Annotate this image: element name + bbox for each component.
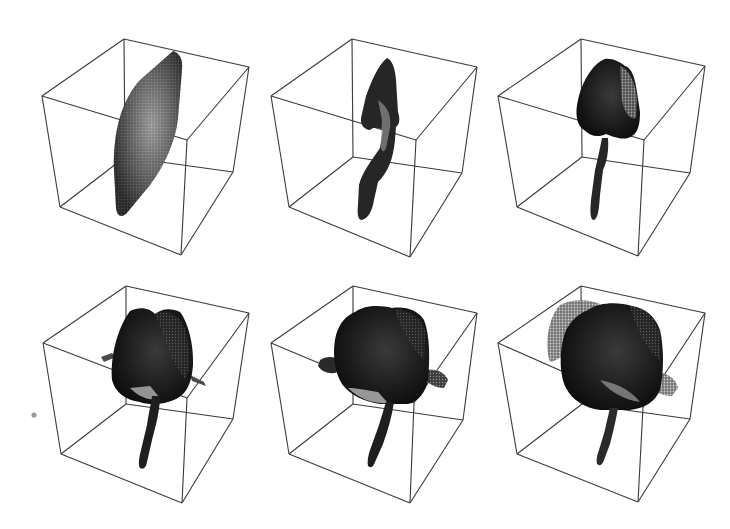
cube-edge <box>353 404 463 420</box>
stray-mark <box>31 412 36 417</box>
cube-edge <box>181 140 187 255</box>
cube-edge <box>233 313 249 419</box>
cube-edge <box>410 140 416 257</box>
cube-edge <box>638 419 690 502</box>
cube-edge <box>271 96 289 207</box>
cube-edge <box>289 404 353 454</box>
cube-edge <box>352 39 477 67</box>
cube-edge <box>638 173 690 256</box>
cube-edge <box>271 343 289 454</box>
cube-edge <box>410 173 462 257</box>
voxel-shape-bud-full <box>547 300 678 465</box>
cube-edge <box>289 207 410 257</box>
panel-stage-1 <box>42 39 249 255</box>
figure-canvas <box>0 0 730 529</box>
cube-edge <box>517 207 638 256</box>
cube-edge <box>638 140 644 256</box>
cube-edge <box>498 343 517 454</box>
voxel-shape-bud-with-leaves <box>101 308 206 469</box>
panel-stage-6 <box>498 286 705 502</box>
cube-edge <box>181 172 233 255</box>
cube-edge <box>126 404 233 419</box>
panel-stage-5 <box>271 286 477 503</box>
cube-edge <box>43 286 126 343</box>
panel-stage-4 <box>31 286 249 503</box>
cube-edge <box>638 407 643 502</box>
cube-edge <box>410 420 463 503</box>
cube-edge <box>42 39 124 96</box>
voxel-shape-stalk <box>358 58 400 220</box>
cube-edge <box>517 404 582 454</box>
voxel-shape-bud-small <box>576 59 640 220</box>
cube-edge <box>410 403 414 503</box>
cube-edge <box>289 454 410 503</box>
cube-edge <box>61 404 126 454</box>
cube-edge <box>498 96 517 207</box>
cube-edge <box>517 454 638 502</box>
cube-edge <box>271 39 352 96</box>
panel-stage-3 <box>498 39 705 256</box>
cube-edge <box>187 313 249 398</box>
panel-stage-2 <box>271 39 477 257</box>
cube-edge <box>182 398 187 503</box>
cube-edge <box>517 157 582 207</box>
cube-edge <box>43 343 61 454</box>
voxel-shape-bud-winged <box>318 306 448 467</box>
cube-wireframe <box>271 39 477 257</box>
cube-edge <box>42 96 60 207</box>
cube-edge <box>61 454 182 503</box>
cube-edge <box>352 39 353 157</box>
cube-edge <box>498 39 581 96</box>
cube-edge <box>182 419 233 503</box>
cube-edge <box>289 157 353 207</box>
cube-edge <box>690 313 705 419</box>
cube-edge <box>124 39 249 67</box>
